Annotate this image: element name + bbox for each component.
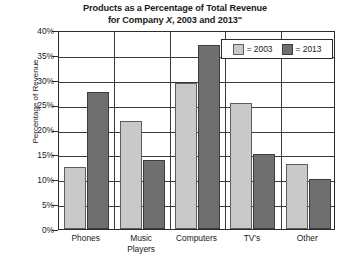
x-axis-tick-label-line: TV's [244, 233, 261, 243]
y-axis-tick-mark [52, 230, 58, 231]
category-separator [170, 32, 171, 229]
x-axis-tick-label-line: Computers [176, 233, 217, 243]
legend-swatch-2003-icon [233, 44, 244, 55]
legend-item-2003: = 2003 [233, 44, 273, 55]
x-axis-tick-label-line: Other [297, 233, 318, 243]
x-axis-tick-label: Other [272, 233, 342, 244]
y-axis-tick-label: 0% [14, 226, 54, 234]
x-axis-tick-label-line: Players [106, 244, 176, 255]
y-axis-tick-label: 40% [14, 27, 54, 35]
chart-title-line1: Products as a Percentage of Total Revenu… [83, 3, 267, 13]
bar-2003-phones [64, 167, 86, 229]
bar-2013-other [309, 179, 331, 229]
bar-2003-other [286, 164, 308, 229]
bar-2003-tv-s [230, 103, 252, 229]
x-axis-tick-label-line: Phones [71, 233, 99, 243]
category-separator [225, 32, 226, 229]
bar-2013-music-players [143, 160, 165, 229]
bar-2003-computers [175, 83, 197, 229]
bar-chart: Products as a Percentage of Total Revenu… [0, 0, 350, 262]
chart-title-line2-pre: for Company [108, 15, 166, 25]
bar-2013-computers [198, 45, 220, 229]
chart-title-line2: for Company X, 2003 and 2013" [0, 15, 350, 27]
bar-2003-music-players [120, 121, 142, 229]
y-axis-tick-label: 5% [14, 201, 54, 209]
legend-label-2013: = 2013 [296, 45, 322, 53]
bar-2013-phones [87, 92, 109, 229]
legend: = 2003 = 2013 [221, 39, 333, 59]
y-axis-tick-label: 30% [14, 77, 54, 85]
legend-item-2013: = 2013 [282, 44, 322, 55]
chart-title: Products as a Percentage of Total Revenu… [0, 3, 350, 26]
x-axis-tick-label-line: Music [130, 233, 152, 243]
chart-title-line2-post: , 2003 and 2013" [172, 15, 242, 25]
legend-swatch-2013-icon [282, 44, 293, 55]
y-axis-tick-label: 20% [14, 126, 54, 134]
y-axis-tick-label: 25% [14, 101, 54, 109]
bar-2013-tv-s [253, 154, 275, 229]
y-axis-tick-label: 15% [14, 151, 54, 159]
y-axis-tick-label: 10% [14, 176, 54, 184]
y-axis-tick-label: 35% [14, 52, 54, 60]
category-separator [114, 32, 115, 229]
category-separator [281, 32, 282, 229]
legend-label-2003: = 2003 [247, 45, 273, 53]
plot-area [58, 31, 335, 230]
